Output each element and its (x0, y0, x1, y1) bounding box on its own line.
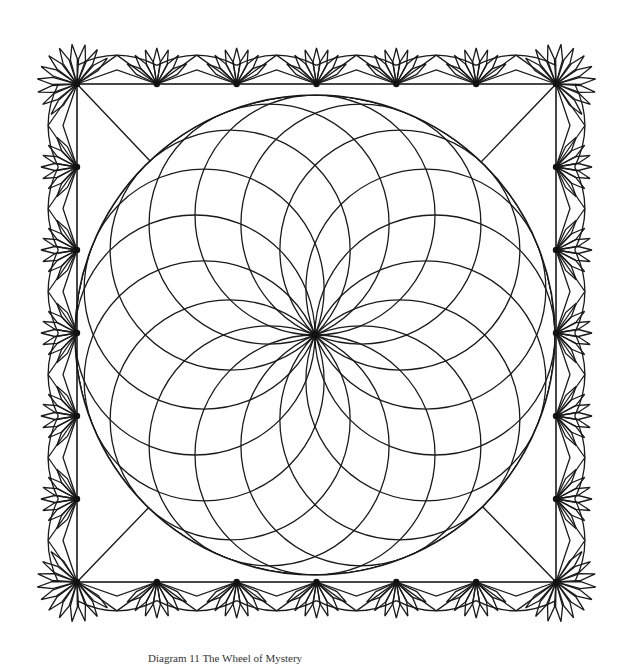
quilt-diagram (0, 0, 633, 650)
figure-caption: Diagram 11 The Wheel of Mystery (148, 652, 302, 664)
